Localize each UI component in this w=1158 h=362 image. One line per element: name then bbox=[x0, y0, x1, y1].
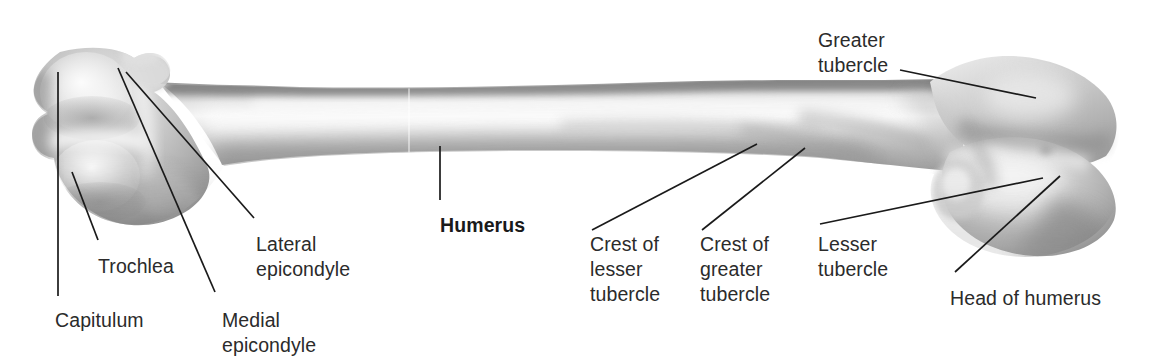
label-greater-tubercle: Greatertubercle bbox=[818, 28, 888, 78]
label-line: lesser bbox=[590, 257, 660, 282]
label-line: tubercle bbox=[700, 282, 770, 307]
nutrient-foramen bbox=[1040, 145, 1052, 155]
label-crest-of-greater-tubercle: Crest ofgreatertubercle bbox=[700, 232, 770, 307]
label-line: tubercle bbox=[590, 282, 660, 307]
label-line: Greater bbox=[818, 28, 888, 53]
label-medial-epicondyle: Medialepicondyle bbox=[222, 308, 316, 358]
humerus-figure: GreatertubercleHumerusLateralepicondyleC… bbox=[0, 0, 1158, 362]
label-line: Crest of bbox=[590, 232, 660, 257]
label-lesser-tubercle: Lessertubercle bbox=[818, 232, 888, 282]
leader-crest-lesser-tubercle bbox=[592, 144, 757, 230]
label-line: tubercle bbox=[818, 53, 888, 78]
label-line: Head of humerus bbox=[950, 286, 1101, 311]
label-line: greater bbox=[700, 257, 770, 282]
label-line: Lateral bbox=[256, 232, 350, 257]
label-crest-of-lesser-tubercle: Crest oflessertubercle bbox=[590, 232, 660, 307]
label-humerus: Humerus bbox=[440, 213, 525, 238]
label-line: Humerus bbox=[440, 213, 525, 238]
label-line: Lesser bbox=[818, 232, 888, 257]
label-line: epicondyle bbox=[222, 333, 316, 358]
label-line: Trochlea bbox=[98, 254, 174, 279]
label-capitulum: Capitulum bbox=[55, 308, 144, 333]
leader-crest-greater-tubercle bbox=[702, 148, 805, 230]
label-line: epicondyle bbox=[256, 257, 350, 282]
label-line: Crest of bbox=[700, 232, 770, 257]
label-line: Medial bbox=[222, 308, 316, 333]
label-trochlea: Trochlea bbox=[98, 254, 174, 279]
label-line: tubercle bbox=[818, 257, 888, 282]
distal-superior-bump bbox=[120, 46, 160, 66]
label-line: Capitulum bbox=[55, 308, 144, 333]
shaft-seam bbox=[408, 78, 410, 178]
label-head-of-humerus: Head of humerus bbox=[950, 286, 1101, 311]
label-lateral-epicondyle: Lateralepicondyle bbox=[256, 232, 350, 282]
